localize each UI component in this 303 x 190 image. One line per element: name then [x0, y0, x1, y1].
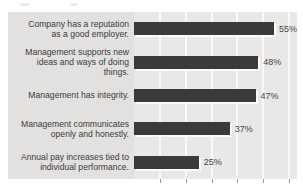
bar-row: 25% [134, 146, 297, 179]
bar-row: 48% [134, 45, 297, 78]
bar-chart-figure: Company has a reputation as a good emplo… [0, 0, 303, 190]
bar [134, 156, 199, 169]
category-label: Company has a reputation as a good emplo… [17, 12, 134, 45]
cropped-text-remnant [20, 3, 30, 6]
axis-tick [263, 179, 264, 183]
axis-tick [160, 179, 161, 183]
bar [134, 56, 258, 69]
bar-row: 47% [134, 79, 297, 112]
axis-tick [186, 179, 187, 183]
category-label: Annual pay increases tied to individual … [17, 146, 134, 179]
bar-row: 37% [134, 112, 297, 145]
cropped-text-remnant [70, 3, 78, 6]
axis-tick [237, 179, 238, 183]
bar [134, 89, 256, 102]
value-label: 48% [263, 57, 281, 67]
bar [134, 22, 274, 35]
axis-tick [289, 179, 290, 183]
plot-area: 55%48%47%37%25% [134, 12, 297, 179]
value-label: 25% [204, 157, 222, 167]
bar [134, 122, 230, 135]
value-label: 47% [261, 91, 279, 101]
bar-row: 55% [134, 12, 297, 45]
x-axis-ticks [134, 179, 297, 185]
value-label: 37% [235, 124, 253, 134]
value-label: 55% [279, 24, 297, 34]
axis-tick [212, 179, 213, 183]
bars-layer: 55%48%47%37%25% [134, 12, 297, 179]
category-label: Management communicates openly and hones… [17, 112, 134, 145]
category-axis: Company has a reputation as a good emplo… [8, 12, 134, 179]
category-label: Management supports new ideas and ways o… [17, 45, 134, 78]
category-label: Management has integrity. [17, 79, 134, 112]
chart-panel: Company has a reputation as a good emplo… [8, 12, 297, 179]
